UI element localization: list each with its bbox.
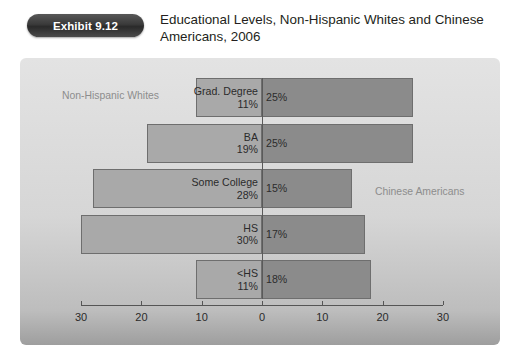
exhibit-number-badge: Exhibit 9.12 (27, 14, 144, 37)
bar-label-3: Some College28% (191, 176, 258, 201)
left-value-label: 11% (237, 280, 258, 293)
diverging-bar-chart: Non-Hispanic Whites Chinese Americans Gr… (20, 58, 500, 345)
bar-label-1: Grad. Degree11% (194, 85, 258, 110)
left-value-label: 30% (237, 234, 258, 247)
exhibit-title: Educational Levels, Non-Hispanic Whites … (160, 11, 500, 45)
bar-label-4: HS30% (237, 222, 258, 247)
axis-tick (202, 301, 203, 305)
bar-left-4 (81, 215, 262, 254)
category-label: BA (237, 131, 258, 144)
right-value-label-1: 25% (266, 91, 287, 104)
axis-tick (262, 301, 263, 305)
axis-tick-label: 30 (68, 311, 94, 323)
right-value-label-5: 18% (266, 273, 287, 286)
right-value-label-3: 15% (266, 182, 287, 195)
axis-tick-label: 10 (189, 311, 215, 323)
axis-tick-label: 20 (370, 311, 396, 323)
axis-tick-label: 20 (128, 311, 154, 323)
axis-tick (322, 301, 323, 305)
chart-panel: Non-Hispanic Whites Chinese Americans Gr… (20, 58, 500, 345)
left-series-annotation: Non-Hispanic Whites (62, 90, 159, 101)
bar-label-2: BA19% (237, 131, 258, 156)
left-value-label: 19% (237, 143, 258, 156)
category-label: HS (237, 222, 258, 235)
zero-axis-line (262, 78, 263, 299)
axis-tick (383, 301, 384, 305)
axis-tick-label: 0 (249, 311, 275, 323)
axis-tick-label: 30 (430, 311, 456, 323)
axis-tick (443, 301, 444, 305)
right-series-annotation: Chinese Americans (375, 186, 465, 197)
bar-label-5: <HS11% (237, 267, 258, 292)
category-label: <HS (237, 267, 258, 280)
right-value-label-2: 25% (266, 137, 287, 150)
right-value-label-4: 17% (266, 228, 287, 241)
category-label: Some College (191, 176, 258, 189)
left-value-label: 28% (191, 189, 258, 202)
axis-tick (141, 301, 142, 305)
exhibit-header: Exhibit 9.12 Educational Levels, Non-His… (0, 0, 521, 58)
axis-tick-label: 10 (309, 311, 335, 323)
left-value-label: 11% (194, 98, 258, 111)
category-label: Grad. Degree (194, 85, 258, 98)
axis-tick (81, 301, 82, 305)
axis-line (81, 305, 443, 306)
